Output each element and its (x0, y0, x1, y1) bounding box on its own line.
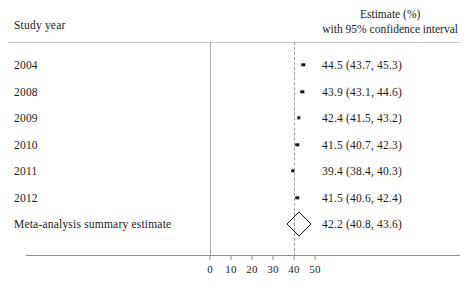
x-axis-tick (252, 255, 253, 260)
x-axis-tick-label: 10 (225, 263, 236, 275)
zero-reference-line (210, 42, 211, 256)
column-header-study-year: Study year (14, 19, 66, 31)
header-divider-rule (8, 42, 460, 43)
row-label-study-year: 2010 (14, 139, 38, 151)
study-point-marker (295, 143, 298, 146)
column-header-estimate-line1: Estimate (%) (322, 7, 458, 22)
forest-plot: Study year Estimate (%) with 95% confide… (0, 0, 466, 292)
row-value-estimate-ci: 39.4 (38.4, 40.3) (322, 165, 402, 177)
x-axis-tick-label: 20 (246, 263, 257, 275)
x-axis-tick (231, 255, 232, 260)
row-label-summary: Meta-analysis summary estimate (14, 218, 171, 230)
column-header-estimate-line2: with 95% confidence interval (322, 22, 458, 37)
x-axis-tick-label: 30 (267, 263, 278, 275)
row-value-estimate-ci: 43.9 (43.1, 44.6) (322, 86, 402, 98)
column-header-estimate: Estimate (%) with 95% confidence interva… (322, 7, 458, 37)
row-label-study-year: 2011 (14, 165, 37, 177)
x-axis-tick (294, 255, 295, 260)
row-label-study-year: 2009 (14, 112, 38, 124)
x-axis-tick (273, 255, 274, 260)
study-point-marker (297, 116, 300, 119)
study-point-marker (291, 169, 294, 172)
study-point-marker (300, 90, 303, 93)
summary-diamond-marker (284, 209, 314, 239)
x-axis-tick-label: 0 (207, 263, 213, 275)
row-value-estimate-ci: 41.5 (40.6, 42.4) (322, 192, 402, 204)
study-point-marker (295, 196, 298, 199)
x-axis-tick (315, 255, 316, 260)
row-label-study-year: 2008 (14, 86, 38, 98)
x-axis-line (26, 255, 460, 256)
row-value-estimate-ci: 44.5 (43.7, 45.3) (322, 59, 402, 71)
x-axis-tick-label: 50 (309, 263, 320, 275)
x-axis-tick (210, 255, 211, 260)
row-value-estimate-ci: 41.5 (40.7, 42.3) (322, 139, 402, 151)
row-label-study-year: 2004 (14, 59, 38, 71)
x-axis-tick-label: 40 (288, 263, 299, 275)
row-value-summary: 42.2 (40.8, 43.6) (322, 218, 402, 230)
row-value-estimate-ci: 42.4 (41.5, 43.2) (322, 112, 402, 124)
study-point-marker (302, 63, 305, 66)
row-label-study-year: 2012 (14, 192, 38, 204)
